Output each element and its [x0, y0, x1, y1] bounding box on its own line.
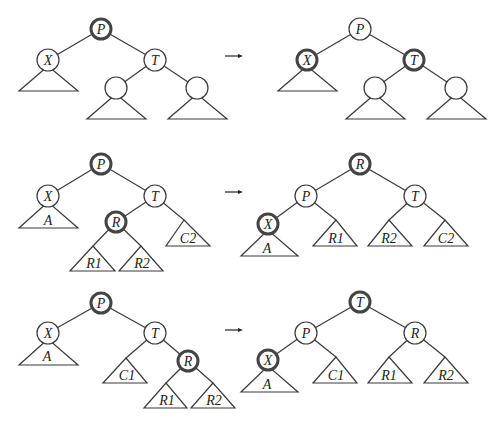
node-label: P	[301, 189, 311, 204]
node-empty	[364, 77, 386, 99]
row2-after-tree: A R1 R2 C2 R P T X	[241, 154, 468, 256]
subtree-label: R1	[380, 368, 397, 383]
node-label: R	[355, 157, 365, 172]
node-label: T	[151, 326, 160, 341]
subtree-label: R2	[437, 368, 454, 383]
subtree-label: C2	[180, 231, 196, 246]
subtree-label: R2	[205, 393, 222, 408]
node-label: R	[183, 354, 193, 369]
subtree-label: A	[43, 213, 53, 228]
node-label: T	[410, 53, 419, 68]
node-label: P	[301, 326, 311, 341]
subtree-label: C1	[328, 368, 344, 383]
subtree-label: A	[42, 349, 52, 364]
node-label: X	[43, 189, 53, 204]
subtree-label: R1	[327, 231, 344, 246]
row1-after-tree: P X T	[278, 18, 486, 119]
subtree-label: C1	[119, 368, 135, 383]
node-label: P	[96, 296, 106, 311]
node-label: T	[411, 189, 420, 204]
node-label: X	[43, 53, 53, 68]
subtree-label: R1	[85, 256, 102, 271]
row1-before-tree: P X T	[19, 19, 227, 119]
node-empty	[105, 77, 127, 99]
subtree-label: A	[262, 377, 272, 392]
subtree-label: A	[262, 241, 272, 256]
subtree-label: R2	[133, 256, 150, 271]
tree-rotation-diagram: P X T P X T A C2	[0, 0, 494, 425]
subtree-label: R2	[380, 231, 397, 246]
subtree-label: C2	[438, 231, 454, 246]
arrow-icon	[225, 190, 243, 194]
node-label: T	[151, 189, 160, 204]
subtree-label: R1	[158, 393, 175, 408]
node-label: X	[263, 217, 273, 232]
arrow-icon	[225, 328, 243, 332]
node-empty	[186, 77, 208, 99]
row2-before-tree: A C2 R1 R2 P X T R	[19, 154, 210, 271]
arrow-icon	[225, 54, 243, 58]
node-label: X	[302, 53, 312, 68]
node-empty	[445, 77, 467, 99]
row3-before-tree: A C1 R1 R2 P X T R	[19, 293, 235, 408]
node-label: T	[356, 295, 365, 310]
node-label: P	[355, 22, 365, 37]
node-label: X	[263, 353, 273, 368]
node-label: R	[410, 326, 420, 341]
node-label: P	[96, 157, 106, 172]
node-label: P	[96, 22, 106, 37]
node-label: R	[111, 215, 121, 230]
row3-after-tree: A C1 R1 R2 T P R X	[241, 292, 468, 392]
node-label: X	[43, 326, 53, 341]
node-label: T	[151, 53, 160, 68]
